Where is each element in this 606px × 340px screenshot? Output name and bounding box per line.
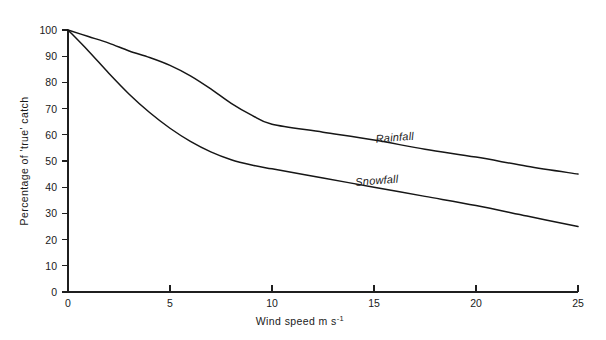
y-tick-label: 20	[45, 234, 57, 246]
y-axis-title: Percentage of 'true' catch	[18, 97, 30, 226]
x-tick-label: 10	[266, 297, 278, 309]
x-axis-ticks	[68, 285, 578, 292]
y-tick-label: 70	[45, 103, 57, 115]
y-tick-label: 90	[45, 50, 57, 62]
x-tick-label: 0	[65, 297, 71, 309]
series-curve-rainfall	[68, 30, 578, 174]
series-curve-snowfall	[68, 30, 578, 227]
x-axis-title: Wind speed m s-1	[256, 314, 344, 327]
y-tick-label: 80	[45, 76, 57, 88]
line-chart: 100 90 80 70 60 50 40 30 20 10 0 0 5 10 …	[0, 0, 606, 340]
x-tick-label: 20	[470, 297, 482, 309]
x-axis-title-text: Wind speed m s	[256, 315, 337, 327]
series-label-rainfall: Rainfall	[375, 130, 414, 145]
y-tick-label: 100	[39, 24, 57, 36]
series-label-snowfall: Snowfall	[355, 173, 399, 188]
chart-figure: 100 90 80 70 60 50 40 30 20 10 0 0 5 10 …	[0, 0, 606, 340]
y-tick-label: 30	[45, 207, 57, 219]
y-tick-labels: 100 90 80 70 60 50 40 30 20 10 0	[39, 24, 57, 298]
y-axis-ticks	[62, 30, 68, 292]
x-tick-label: 5	[167, 297, 173, 309]
x-tick-labels: 0 5 10 15 20 25	[65, 297, 584, 309]
x-axis-title-exponent: -1	[337, 314, 344, 323]
x-tick-label: 15	[368, 297, 380, 309]
y-tick-label: 60	[45, 129, 57, 141]
y-tick-label: 0	[51, 286, 57, 298]
y-tick-label: 40	[45, 181, 57, 193]
y-tick-label: 50	[45, 155, 57, 167]
y-tick-label: 10	[45, 260, 57, 272]
x-tick-label: 25	[572, 297, 584, 309]
